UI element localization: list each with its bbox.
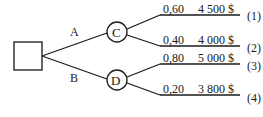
outcome-2-probability: 0,40: [163, 34, 184, 46]
outcome-3-id: (3): [247, 60, 261, 72]
outcome-1-probability: 0,60: [163, 3, 184, 15]
branch-b-label: B: [70, 72, 78, 84]
branch-a-label: A: [70, 26, 79, 38]
outcome-4-probability: 0,20: [163, 83, 184, 95]
outcome-2-diagonal: [127, 35, 160, 46]
outcome-3-value: 5 000 $: [198, 52, 234, 64]
chance-node-c-label: C: [112, 26, 121, 39]
outcome-1-id: (1): [247, 10, 261, 22]
outcome-3-probability: 0,80: [163, 52, 184, 64]
outcome-1-diagonal: [127, 15, 160, 29]
outcome-2-id: (2): [247, 42, 261, 54]
outcome-3-diagonal: [127, 64, 160, 77]
decision-tree-diagram: A B C D 0,60 4 500 $ (1) 0,40 4 000 $ (2…: [0, 0, 263, 117]
chance-node-d-label: D: [111, 74, 120, 87]
outcome-4-id: (4): [247, 92, 261, 104]
outcome-2-value: 4 000 $: [198, 34, 234, 46]
decision-node-square: [14, 42, 42, 70]
outcome-4-value: 3 800 $: [198, 83, 234, 95]
outcome-4-diagonal: [127, 83, 160, 95]
outcome-1-value: 4 500 $: [198, 3, 234, 15]
